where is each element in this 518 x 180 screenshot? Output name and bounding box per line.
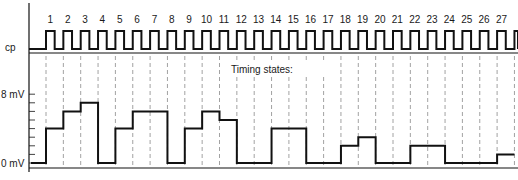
state-label: 21 (392, 14, 404, 25)
state-label: 14 (270, 14, 282, 25)
state-label: 3 (82, 14, 88, 25)
clock-waveform (29, 31, 518, 49)
voltage-waveform (31, 103, 514, 163)
state-label: 6 (134, 14, 140, 25)
y-label-min: 0 mV (1, 158, 25, 169)
state-label: 17 (322, 14, 334, 25)
state-label: 24 (444, 14, 456, 25)
state-label: 13 (253, 14, 265, 25)
state-label: 15 (288, 14, 300, 25)
state-label: 2 (65, 14, 71, 25)
diagram-title: Timing states: (231, 64, 293, 75)
voltage-axis-ticks (29, 94, 35, 163)
state-label: 16 (305, 14, 317, 25)
clock-label: cp (5, 42, 16, 53)
state-label: 11 (219, 14, 230, 25)
state-label: 7 (152, 14, 158, 25)
state-label: 10 (201, 14, 213, 25)
state-label: 23 (426, 14, 438, 25)
state-label: 27 (496, 14, 508, 25)
state-label: 18 (340, 14, 352, 25)
state-label: 12 (236, 14, 248, 25)
state-label: 19 (357, 14, 369, 25)
state-label: 1 (48, 14, 54, 25)
state-label: 5 (117, 14, 123, 25)
state-label: 25 (461, 14, 473, 25)
state-label: 20 (374, 14, 386, 25)
state-number-labels: 1234567891011121314151617181920212223242… (48, 14, 508, 25)
y-label-max: 8 mV (1, 89, 25, 100)
state-label: 22 (409, 14, 421, 25)
timing-diagram: 1234567891011121314151617181920212223242… (0, 0, 518, 180)
state-label: 8 (169, 14, 175, 25)
state-label: 4 (100, 14, 106, 25)
state-label: 9 (186, 14, 192, 25)
state-label: 26 (479, 14, 491, 25)
